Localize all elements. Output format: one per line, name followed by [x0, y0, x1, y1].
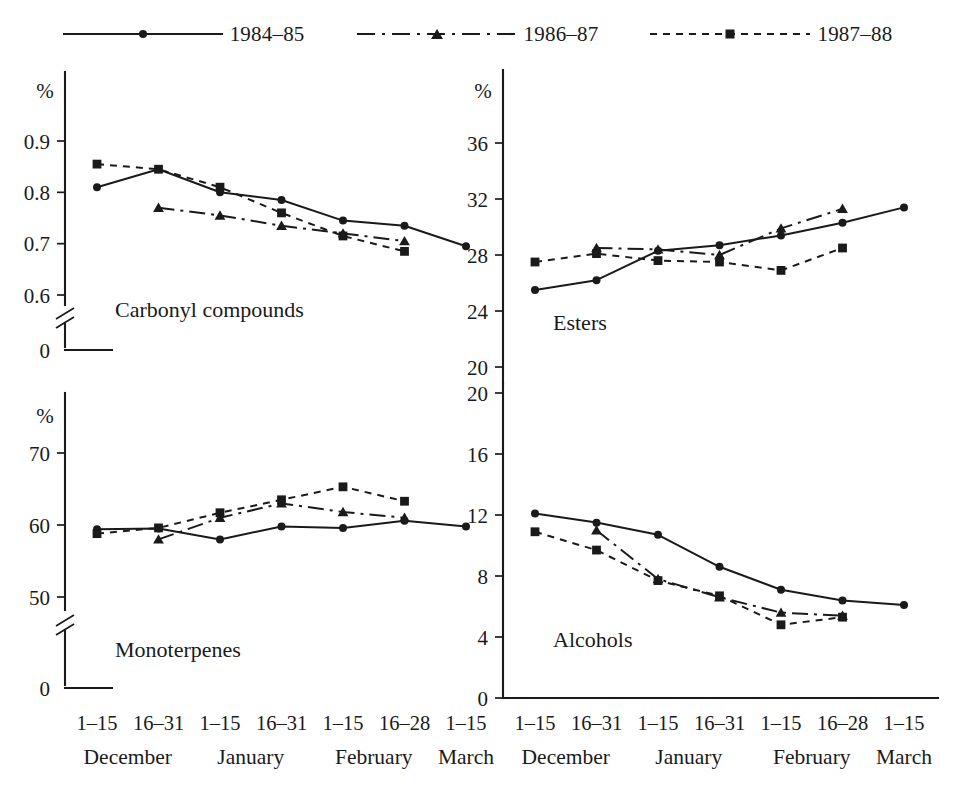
y-axis-tick-label: 8 [478, 565, 489, 589]
series-line-1984-85 [97, 169, 466, 246]
series-line-1987-88 [97, 164, 405, 251]
y-axis-tick-label: 28 [467, 244, 488, 268]
x-axis-tick-label: 1–15 [323, 712, 364, 735]
data-point-marker [838, 613, 847, 622]
data-point-marker [216, 183, 225, 192]
legend-label-1987-88: 1987–88 [817, 22, 892, 47]
chart-panel-monoterpenes: 5060700%Monoterpenes [20, 385, 490, 710]
data-point-marker [591, 525, 602, 534]
y-axis-unit-label: % [36, 404, 54, 428]
data-point-marker [277, 208, 286, 217]
data-point-marker [531, 258, 540, 267]
data-point-marker [531, 509, 539, 517]
panel-title: Carbonyl compounds [115, 297, 304, 322]
data-point-marker [399, 236, 410, 245]
y-axis-tick-label: 60 [29, 514, 50, 538]
data-point-marker [900, 203, 908, 211]
x-axis-tick-label: 1–15 [515, 712, 556, 735]
x-axis-month-label: January [655, 745, 722, 770]
y-axis-tick-label: 36 [467, 132, 488, 156]
x-axis-labels-right: 1–1516–311–1516–311–1516–281–15DecemberJ… [468, 712, 955, 782]
data-point-marker [278, 196, 286, 204]
x-axis-tick-label: 16–31 [133, 712, 184, 735]
y-axis-tick-label: 32 [467, 188, 488, 212]
y-axis-zero-label: 0 [40, 677, 51, 701]
data-point-marker [715, 591, 724, 600]
data-point-marker [839, 219, 847, 227]
x-axis-tick-label: 16–28 [817, 712, 868, 735]
x-axis-tick-label: 1–15 [638, 712, 679, 735]
data-point-marker [839, 596, 847, 604]
data-point-marker [93, 529, 102, 538]
panel-title: Alcohols [553, 627, 632, 652]
chart-legend: 1984–85 1986–87 1987–88 [0, 14, 955, 54]
series-line-1986-87 [597, 530, 843, 615]
y-axis-tick-label: 16 [467, 443, 488, 467]
legend-entry-1986-87: 1986–87 [357, 22, 599, 47]
chart-panel-alcohols: 048121620Alcohols [468, 375, 955, 710]
data-point-marker [654, 256, 663, 265]
chart-panel-esters: 2024283236%Esters [468, 62, 955, 392]
y-axis-tick-label: 0 [478, 687, 489, 711]
y-axis-tick-label: 70 [29, 442, 50, 466]
x-axis-month-label: January [217, 745, 284, 770]
x-axis-tick-label: 16–31 [694, 712, 745, 735]
data-point-marker [93, 160, 102, 169]
data-point-marker [154, 523, 163, 532]
x-axis-month-label: March [876, 745, 932, 770]
y-axis-tick-label: 24 [467, 300, 489, 324]
data-point-marker [401, 222, 409, 230]
data-point-marker [592, 546, 601, 555]
y-axis-tick-label: 50 [29, 586, 50, 610]
data-point-marker [339, 232, 348, 241]
x-axis-tick-label: 1–15 [761, 712, 802, 735]
data-point-marker [215, 210, 226, 219]
data-point-marker [777, 620, 786, 629]
data-point-marker [400, 497, 409, 506]
y-axis-unit-label: % [36, 79, 54, 103]
y-axis-unit-label: % [474, 79, 492, 103]
data-point-marker [715, 258, 724, 267]
y-axis-tick-label: 0.8 [24, 181, 50, 205]
series-line-1984-85 [535, 514, 904, 606]
data-point-marker [716, 241, 724, 249]
legend-label-1986-87: 1986–87 [524, 22, 599, 47]
data-point-marker [593, 276, 601, 284]
y-axis-tick-label: 20 [467, 382, 488, 406]
panel-title: Esters [553, 310, 607, 335]
data-point-marker [93, 183, 101, 191]
data-point-marker [777, 266, 786, 275]
data-point-marker [837, 204, 848, 213]
legend-entry-1987-88: 1987–88 [650, 22, 892, 47]
x-axis-tick-label: 16–31 [256, 712, 307, 735]
x-axis-tick-label: 1–15 [200, 712, 241, 735]
chart-svg: 2024283236%Esters [468, 62, 955, 392]
data-point-marker [339, 524, 347, 532]
x-axis-tick-label: 1–15 [884, 712, 925, 735]
data-point-marker [216, 508, 225, 517]
series-line-1987-88 [535, 248, 843, 270]
panel-title: Monoterpenes [115, 637, 241, 662]
x-axis-labels-left: 1–1516–311–1516–311–1516–281–15DecemberJ… [20, 712, 490, 782]
data-point-marker [278, 522, 286, 530]
y-axis-tick-label: 0.6 [24, 284, 50, 308]
x-axis-month-label: February [773, 745, 851, 770]
chart-svg: 0.60.70.80.90%Carbonyl compounds [20, 62, 490, 362]
legend-line-sample-solid [63, 26, 223, 42]
data-point-marker [531, 527, 540, 536]
data-point-marker [277, 495, 286, 504]
y-axis-tick-label: 0.7 [24, 232, 50, 256]
data-point-marker [400, 247, 409, 256]
data-point-marker [838, 244, 847, 253]
data-point-marker [531, 286, 539, 294]
chart-svg: 048121620Alcohols [468, 375, 955, 710]
data-point-marker [777, 586, 785, 594]
legend-entry-1984-85: 1984–85 [63, 22, 305, 47]
data-point-marker [716, 563, 724, 571]
data-point-marker [339, 217, 347, 225]
chart-panel-carbonyl-compounds: 0.60.70.80.90%Carbonyl compounds [20, 62, 490, 362]
y-axis-tick-label: 0.9 [24, 130, 50, 154]
data-point-marker [654, 531, 662, 539]
legend-line-sample-dotted [650, 26, 810, 42]
series-line-1987-88 [535, 532, 843, 625]
